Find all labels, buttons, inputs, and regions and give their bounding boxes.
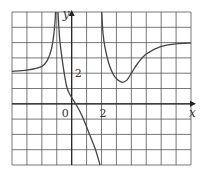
function-graph: y x 0 2 2	[0, 0, 202, 179]
x-tick-label-2: 2	[100, 107, 107, 120]
axes	[12, 10, 196, 165]
y-axis-arrow-icon	[69, 10, 75, 16]
origin-label: 0	[62, 107, 69, 120]
y-tick-label-2: 2	[75, 67, 82, 80]
grid	[12, 12, 191, 165]
x-axis-label: x	[189, 106, 196, 120]
curve-left-branch	[12, 12, 56, 71]
y-axis-label: y	[62, 7, 70, 21]
